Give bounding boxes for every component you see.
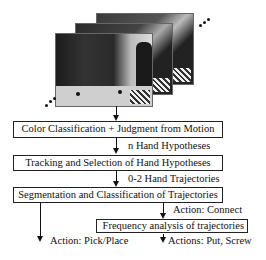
edge-label-put-screw: Actions: Put, Screw xyxy=(168,236,252,247)
box-label: Frequency analysis of trajectories xyxy=(103,221,244,232)
arrow-head-icon xyxy=(113,148,119,154)
ellipsis-dot xyxy=(53,97,56,100)
frame-front-inset xyxy=(130,90,150,104)
frequency-analysis-box: Frequency analysis of trajectories xyxy=(96,219,248,233)
arrow-head-icon xyxy=(160,237,166,243)
edge-label-n-hand-hypotheses: n Hand Hypotheses xyxy=(128,141,210,152)
segmentation-classification-box: Segmentation and Classification of Traje… xyxy=(13,187,223,203)
color-classification-box: Color Classification + Judgment from Mot… xyxy=(13,121,223,138)
box-label: Segmentation and Classification of Traje… xyxy=(18,190,217,201)
frame-front-object xyxy=(76,92,80,96)
edge-label-pick-place: Action: Pick/Place xyxy=(50,236,128,247)
tracking-selection-box: Tracking and Selection of Hand Hypothese… xyxy=(13,155,223,171)
frame-front-object xyxy=(118,90,122,94)
ellipsis-dot xyxy=(49,100,52,103)
frame-back-inset xyxy=(171,68,191,82)
ellipsis-dot xyxy=(207,18,210,21)
frame-front-person xyxy=(136,42,152,86)
arrow-shaft xyxy=(40,202,41,237)
box-label: Color Classification + Judgment from Mot… xyxy=(22,124,215,135)
edge-label-connect: Action: Connect xyxy=(173,205,242,216)
video-frame-front xyxy=(55,33,153,107)
ellipsis-dot xyxy=(199,24,202,27)
arrow-head-icon xyxy=(37,236,43,242)
ellipsis-dot xyxy=(203,21,206,24)
box-label: Tracking and Selection of Hand Hypothese… xyxy=(25,158,210,169)
ellipsis-dot xyxy=(45,104,48,107)
edge-label-hand-trajectories: 0-2 Hand Trajectories xyxy=(128,174,220,185)
frame-middle-inset xyxy=(150,78,170,92)
